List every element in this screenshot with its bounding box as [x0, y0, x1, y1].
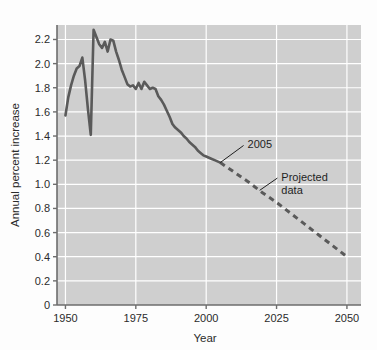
y-tick-label: 2.0: [35, 58, 50, 70]
plot-background: [57, 25, 361, 305]
chart-figure: 00.20.40.60.81.01.21.41.61.82.02.2 19501…: [0, 0, 377, 350]
x-tick-label: 2025: [264, 312, 288, 324]
y-tick-label: 1.6: [35, 106, 50, 118]
y-tick-label: 1.0: [35, 178, 50, 190]
x-tick-label: 1950: [53, 312, 77, 324]
x-tick-label: 2000: [194, 312, 218, 324]
x-tick-label: 1975: [124, 312, 148, 324]
y-tick-label: 0.2: [35, 275, 50, 287]
y-tick-label: 2.2: [35, 33, 50, 45]
annotation-label-line: Projected: [281, 171, 327, 183]
x-tick-label: 2050: [335, 312, 359, 324]
y-tick-label: 0: [44, 299, 50, 311]
annotation-label-line: data: [281, 184, 303, 196]
y-tick-label: 0.4: [35, 251, 50, 263]
annotation-label: 2005: [248, 138, 272, 150]
plot-area: [57, 25, 361, 305]
y-tick-label: 0.6: [35, 227, 50, 239]
y-tick-label: 1.4: [35, 130, 50, 142]
x-axis-title: Year: [193, 332, 216, 344]
annual-percent-increase-line-chart: 00.20.40.60.81.01.21.41.61.82.02.2 19501…: [0, 0, 377, 350]
annotation-label-line: 2005: [248, 138, 272, 150]
y-tick-label: 0.8: [35, 202, 50, 214]
y-tick-label: 1.8: [35, 82, 50, 94]
y-tick-label: 1.2: [35, 154, 50, 166]
y-axis-title: Annual percent increase: [9, 103, 21, 227]
